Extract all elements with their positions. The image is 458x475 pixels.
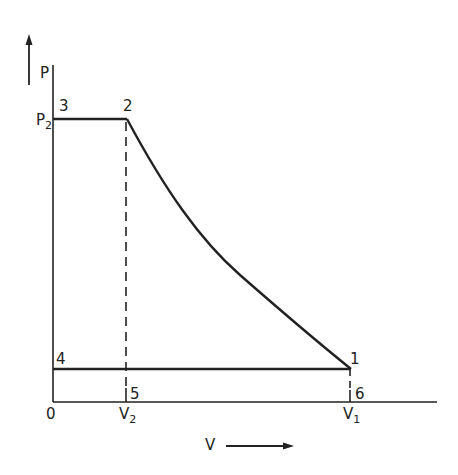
point-5-label: 5 (130, 387, 140, 402)
v2-sub: 2 (129, 413, 136, 426)
v2-base: V (119, 405, 129, 423)
curve-2-1 (127, 119, 351, 369)
v-arrow (226, 443, 294, 450)
p2-sub: 2 (45, 119, 52, 132)
v1-label: V1 (343, 407, 360, 422)
p2-label: P2 (36, 113, 52, 128)
v1-base: V (343, 405, 353, 423)
v2-label: V2 (119, 407, 136, 422)
origin-label: 0 (46, 407, 56, 422)
y-axis-label: P (40, 66, 49, 81)
pv-diagram (0, 0, 458, 475)
point-4-label: 4 (56, 352, 66, 367)
p2-base: P (36, 111, 45, 129)
p-arrow (26, 34, 33, 85)
v1-sub: 1 (353, 413, 360, 426)
point-2-label: 2 (123, 99, 133, 114)
point-1-label: 1 (350, 352, 360, 367)
x-axis-label: V (205, 438, 215, 453)
point-3-label: 3 (59, 99, 69, 114)
point-6-label: 6 (355, 387, 365, 402)
